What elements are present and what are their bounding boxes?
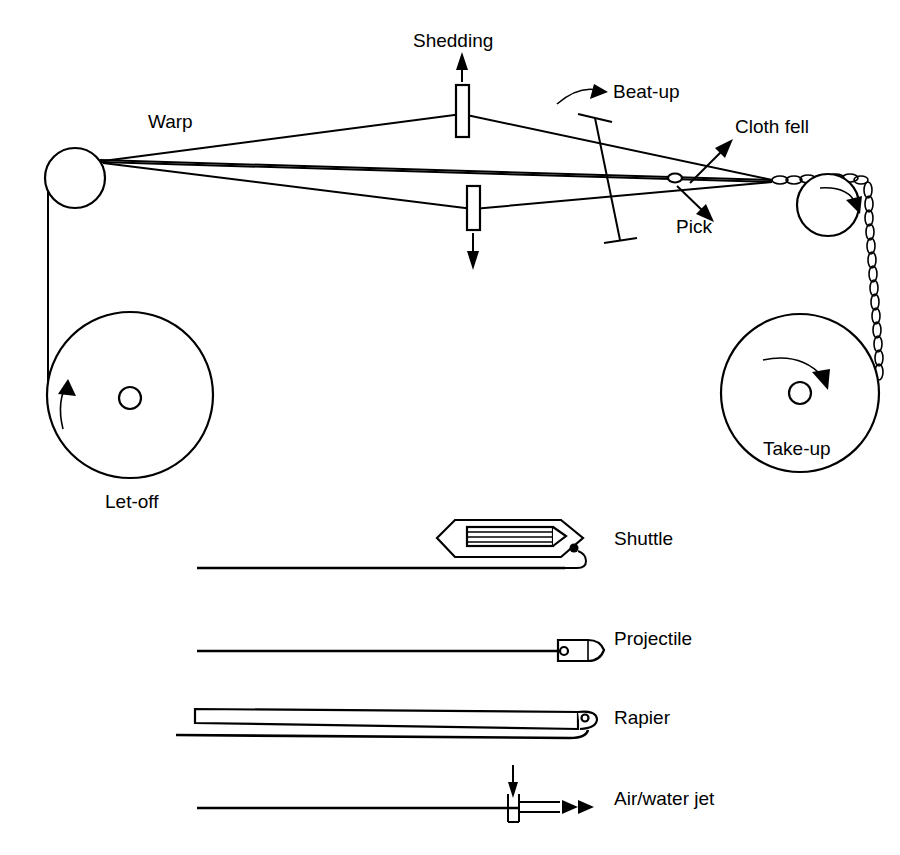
heddle-frame-lower — [467, 186, 480, 230]
jet-stream-chevron-1 — [562, 800, 578, 814]
label-rapier: Rapier — [614, 707, 671, 728]
label-air-water-jet: Air/water jet — [614, 788, 715, 809]
front-rest-roller — [797, 174, 859, 236]
device-shuttle — [197, 520, 586, 568]
jet-stream-chevron-2 — [578, 800, 594, 814]
device-air-water-jet — [197, 765, 594, 822]
back-rest-roller — [45, 148, 105, 208]
label-pick: Pick — [676, 216, 712, 237]
rapier-rod — [195, 709, 578, 729]
take-up-beam-core — [789, 382, 811, 404]
rapier-hook-eye — [582, 715, 589, 722]
label-shuttle: Shuttle — [614, 528, 673, 549]
let-off-beam-core — [119, 387, 141, 409]
rapier-weft-yarn — [176, 730, 588, 738]
label-projectile: Projectile — [614, 628, 692, 649]
shedding-arrow-down-head — [467, 251, 479, 270]
shedding-arrow-up-head — [456, 52, 468, 70]
heddle-frame-upper — [456, 85, 469, 137]
pick-marker — [668, 174, 682, 183]
label-warp: Warp — [148, 111, 193, 132]
label-beat-up: Beat-up — [613, 81, 680, 102]
beat-up-arrow-head — [590, 84, 608, 99]
shuttle-thread-eye — [570, 544, 579, 553]
jet-supply-arrow-head — [508, 782, 518, 798]
figure-canvas: Warp Shedding Beat-up Cloth fell Pick Le… — [0, 0, 900, 855]
projectile-gripper-clamp — [560, 647, 568, 655]
label-take-up: Take-up — [763, 438, 831, 459]
label-let-off: Let-off — [105, 491, 159, 512]
reed-bar — [595, 118, 620, 240]
shuttle-yarn-loop — [565, 551, 586, 568]
loom-diagram: Warp Shedding Beat-up Cloth fell Pick Le… — [0, 0, 900, 855]
label-shedding: Shedding — [413, 30, 493, 51]
label-cloth-fell: Cloth fell — [735, 116, 809, 137]
device-rapier — [176, 709, 597, 738]
device-projectile — [197, 640, 604, 661]
